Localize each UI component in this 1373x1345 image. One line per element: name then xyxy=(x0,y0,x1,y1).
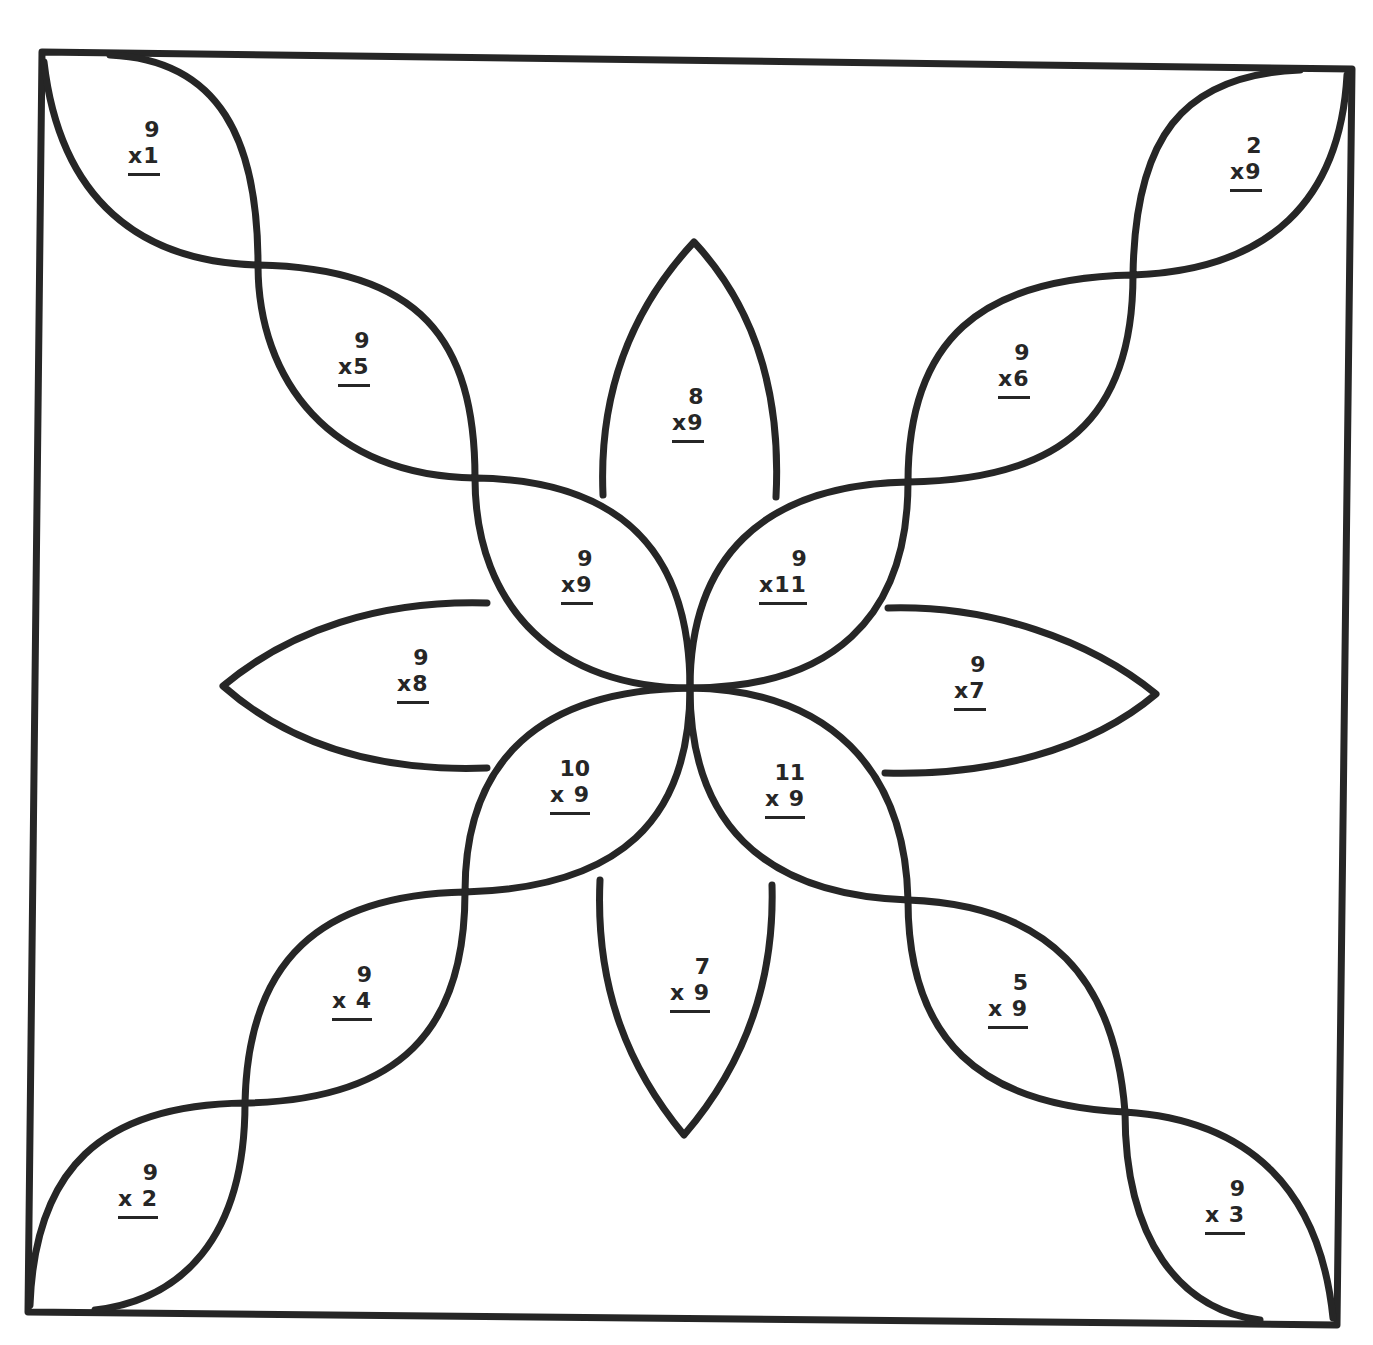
multiplicand: 9 xyxy=(561,546,593,572)
multiplier: x11 xyxy=(759,572,807,605)
problem-petal-bottom: 7x 9 xyxy=(670,954,710,1013)
region-petal-right[interactable] xyxy=(885,608,1156,773)
region-petal-top[interactable] xyxy=(603,242,777,497)
multiplier: x 9 xyxy=(765,786,805,819)
problem-arm-upper-left: 9x5 xyxy=(338,328,370,387)
multiplier: x 9 xyxy=(670,980,710,1013)
multiplicand: 7 xyxy=(670,954,710,980)
multiplier: x9 xyxy=(1230,159,1262,192)
problem-petal-left: 9x8 xyxy=(397,645,429,704)
multiplicand: 8 xyxy=(672,384,704,410)
worksheet-drawing xyxy=(0,0,1373,1345)
multiplier: x7 xyxy=(954,678,986,711)
multiplicand: 9 xyxy=(998,340,1030,366)
problem-corner-top-left: 9x1 xyxy=(128,117,160,176)
multiplicand: 5 xyxy=(988,970,1028,996)
problem-inner-upper-left: 9x9 xyxy=(561,546,593,605)
multiplicand: 2 xyxy=(1230,133,1262,159)
problem-corner-bottom-left: 9x 2 xyxy=(118,1160,158,1219)
problem-petal-right: 9x7 xyxy=(954,652,986,711)
multiplier: x8 xyxy=(397,671,429,704)
multiplicand: 10 xyxy=(550,756,590,782)
multiplier: x 3 xyxy=(1205,1202,1245,1235)
multiplicand: 9 xyxy=(954,652,986,678)
multiplier: x5 xyxy=(338,354,370,387)
problem-inner-lower-left: 10x 9 xyxy=(550,756,590,815)
problem-corner-top-right: 2x9 xyxy=(1230,133,1262,192)
multiplicand: 9 xyxy=(128,117,160,143)
multiplier: x 9 xyxy=(550,782,590,815)
multiplier: x 9 xyxy=(988,996,1028,1029)
multiplicand: 11 xyxy=(765,760,805,786)
problem-petal-top: 8x9 xyxy=(672,384,704,443)
multiplier: x 4 xyxy=(332,988,372,1021)
region-petal-left[interactable] xyxy=(223,603,487,769)
problem-arm-upper-right: 9x6 xyxy=(998,340,1030,399)
problem-arm-lower-left: 9x 4 xyxy=(332,962,372,1021)
problem-inner-lower-right: 11x 9 xyxy=(765,760,805,819)
multiplicand: 9 xyxy=(332,962,372,988)
multiplier: x9 xyxy=(672,410,704,443)
multiplier: x6 xyxy=(998,366,1030,399)
multiplier: x9 xyxy=(561,572,593,605)
multiplier: x 2 xyxy=(118,1186,158,1219)
problem-inner-upper-right: 9x11 xyxy=(759,546,807,605)
multiplicand: 9 xyxy=(397,645,429,671)
multiplicand: 9 xyxy=(338,328,370,354)
multiplicand: 9 xyxy=(118,1160,158,1186)
multiplier: x1 xyxy=(128,143,160,176)
problem-corner-bottom-right: 9x 3 xyxy=(1205,1176,1245,1235)
multiplicand: 9 xyxy=(1205,1176,1245,1202)
multiplicand: 9 xyxy=(759,546,807,572)
problem-arm-lower-right: 5x 9 xyxy=(988,970,1028,1029)
